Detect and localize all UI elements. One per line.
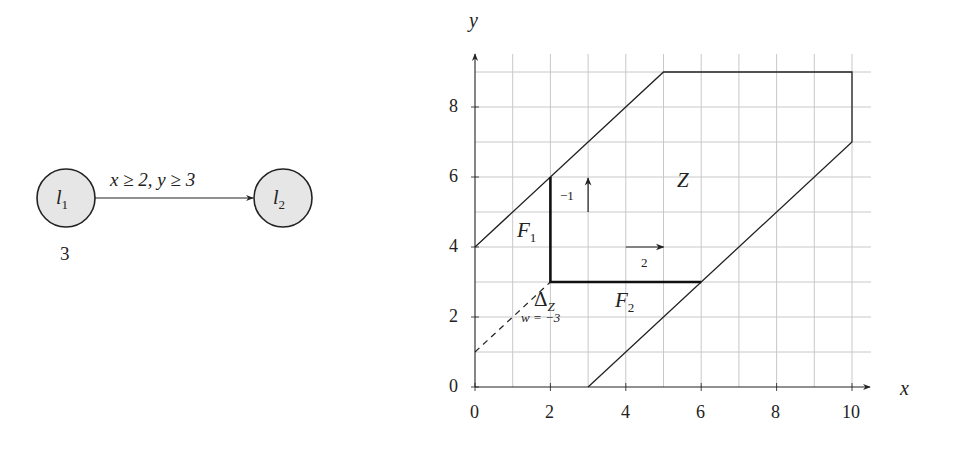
node-l1-subscript: 1 bbox=[62, 197, 69, 212]
y-tick-8: 8 bbox=[449, 97, 458, 115]
x-tick-2: 2 bbox=[545, 403, 554, 421]
zone-z-label: Z bbox=[677, 170, 689, 191]
rate-x-label: 2 bbox=[641, 256, 648, 269]
delta-symbol: Δ bbox=[534, 287, 548, 311]
facet-f1-label: F1 bbox=[517, 220, 536, 244]
figure: l1 l2 3 x ≥ 2, y ≥ 3 y x 0 2 4 6 8 0 2 4… bbox=[0, 0, 955, 450]
y-tick-6: 6 bbox=[449, 167, 458, 185]
y-tick-0: 0 bbox=[449, 377, 458, 395]
y-tick-2: 2 bbox=[449, 307, 458, 325]
node-l2-label: l2 bbox=[273, 187, 285, 211]
x-tick-8: 8 bbox=[771, 403, 780, 421]
facet-f2-name: F bbox=[615, 288, 628, 312]
facet-f1-name: F bbox=[517, 218, 530, 242]
figure-graphics bbox=[0, 0, 955, 450]
x-tick-10: 10 bbox=[842, 403, 860, 421]
facet-f2-subscript: 2 bbox=[628, 300, 635, 315]
rate-y-label: −1 bbox=[560, 189, 574, 202]
node-l1-invariant: 3 bbox=[60, 244, 70, 263]
x-tick-0: 0 bbox=[470, 403, 479, 421]
y-axis-label: y bbox=[469, 10, 478, 30]
axis-ticks bbox=[471, 107, 852, 391]
x-tick-6: 6 bbox=[696, 403, 705, 421]
x-axis-label: x bbox=[900, 378, 909, 398]
node-l1-label: l1 bbox=[56, 187, 68, 211]
edge-guard-label: x ≥ 2, y ≥ 3 bbox=[110, 170, 195, 189]
weight-label: w = −3 bbox=[521, 311, 560, 324]
facet-f1-subscript: 1 bbox=[530, 230, 537, 245]
x-tick-4: 4 bbox=[621, 403, 630, 421]
y-tick-4: 4 bbox=[449, 237, 458, 255]
facet-f2-label: F2 bbox=[615, 290, 634, 314]
node-l2-subscript: 2 bbox=[279, 197, 286, 212]
